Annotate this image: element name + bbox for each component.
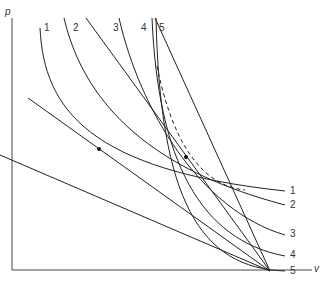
tangent-point-1 — [97, 147, 101, 151]
curve-label-right-3: 3 — [290, 229, 296, 239]
curve-label-right-5: 5 — [290, 266, 296, 276]
y-axis-label: p — [5, 7, 11, 17]
p-v-diagram — [0, 0, 324, 296]
curve-3 — [119, 18, 285, 235]
curve-label-top-5: 5 — [159, 23, 165, 33]
straight-line-tangent-1 — [28, 98, 270, 271]
straight-line-line-a — [86, 18, 270, 271]
curve-label-right-4: 4 — [290, 250, 296, 260]
curve-label-top-3: 3 — [113, 23, 119, 33]
curve-label-top-2: 2 — [73, 23, 79, 33]
envelope-dashed-curve — [157, 66, 245, 190]
curve-label-right-1: 1 — [290, 186, 296, 196]
straight-line-group — [0, 18, 270, 271]
curve-5 — [156, 18, 285, 271]
curve-label-top-4: 4 — [141, 23, 147, 33]
curve-label-right-2: 2 — [290, 200, 296, 210]
curve-group — [40, 18, 285, 271]
curve-2 — [64, 18, 285, 205]
x-axis-label: v — [314, 264, 319, 274]
tangent-point-2 — [184, 155, 188, 159]
straight-line-line-c — [0, 155, 270, 271]
curve-label-top-1: 1 — [44, 23, 50, 33]
